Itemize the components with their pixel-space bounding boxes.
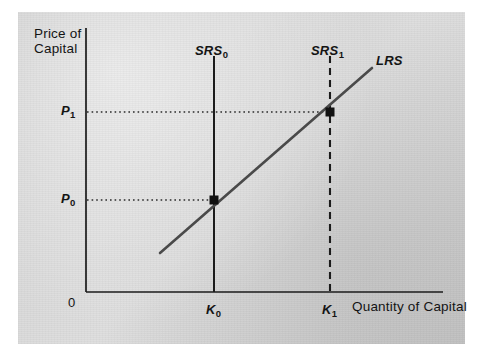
y-tick-label-p0: P0 xyxy=(61,192,75,207)
equilibrium-marker-e1 xyxy=(326,108,335,117)
y-axis-title: Price of Capital xyxy=(34,26,81,56)
x-tick-label-k1-base: K xyxy=(322,302,331,317)
curve-label-srs1-subscript: 1 xyxy=(339,49,344,60)
y-tick-label-p0-base: P xyxy=(61,191,70,206)
curve-label-srs1-base: SRS xyxy=(311,43,338,58)
y-axis-title-line2: Capital xyxy=(34,41,81,56)
y-tick-label-p0-subscript: 0 xyxy=(70,197,75,208)
curve-lrs xyxy=(160,68,372,253)
y-tick-label-p1-subscript: 1 xyxy=(70,109,75,120)
x-tick-label-k0-base: K xyxy=(206,302,215,317)
curve-label-lrs: LRS xyxy=(376,54,403,69)
curve-label-srs0: SRS0 xyxy=(195,44,228,59)
origin-label: 0 xyxy=(68,296,75,311)
curve-label-srs0-base: SRS xyxy=(195,43,222,58)
equilibrium-marker-e0 xyxy=(210,196,219,205)
figure-container: Price of Capital Quantity of Capital 0 S… xyxy=(0,0,482,356)
x-tick-label-k1-subscript: 1 xyxy=(332,308,337,319)
y-tick-label-p1-base: P xyxy=(61,103,70,118)
y-axis-title-line1: Price of xyxy=(34,26,81,41)
x-tick-label-k1: K1 xyxy=(322,303,337,318)
curve-label-srs0-subscript: 0 xyxy=(223,49,228,60)
x-axis-title: Quantity of Capital xyxy=(352,299,467,314)
x-tick-label-k0: K0 xyxy=(206,303,221,318)
y-tick-label-p1: P1 xyxy=(61,104,75,119)
curve-label-srs1: SRS1 xyxy=(311,44,344,59)
x-tick-label-k0-subscript: 0 xyxy=(216,308,221,319)
